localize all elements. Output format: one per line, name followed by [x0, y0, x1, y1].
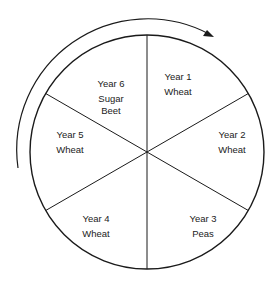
arrowhead-icon — [203, 30, 214, 37]
segment-year: Year 1 — [164, 71, 191, 82]
segment-year: Year 4 — [82, 213, 109, 224]
segment-crop: Peas — [192, 228, 214, 239]
segment-label-year-6: Year 6SugarBeet — [97, 78, 124, 116]
segment-crop: Wheat — [56, 144, 84, 155]
segment-year: Year 2 — [218, 129, 245, 140]
segment-crop: Sugar — [98, 93, 123, 104]
segment-crop: Wheat — [164, 86, 192, 97]
segment-crop: Beet — [101, 105, 121, 116]
segment-divider — [147, 152, 248, 211]
segment-label-year-3: Year 3Peas — [189, 213, 216, 239]
segment-label-year-4: Year 4Wheat — [82, 213, 110, 239]
segment-divider — [46, 152, 147, 211]
segment-year: Year 6 — [97, 78, 124, 89]
segment-label-year-2: Year 2Wheat — [218, 129, 246, 155]
segment-crop: Wheat — [82, 228, 110, 239]
segment-year: Year 5 — [56, 129, 83, 140]
segment-label-year-1: Year 1Wheat — [164, 71, 192, 97]
segment-year: Year 3 — [189, 213, 216, 224]
segment-crop: Wheat — [218, 144, 246, 155]
segment-label-year-5: Year 5Wheat — [56, 129, 84, 155]
rotation-diagram: Year 1WheatYear 2WheatYear 3PeasYear 4Wh… — [0, 0, 277, 287]
